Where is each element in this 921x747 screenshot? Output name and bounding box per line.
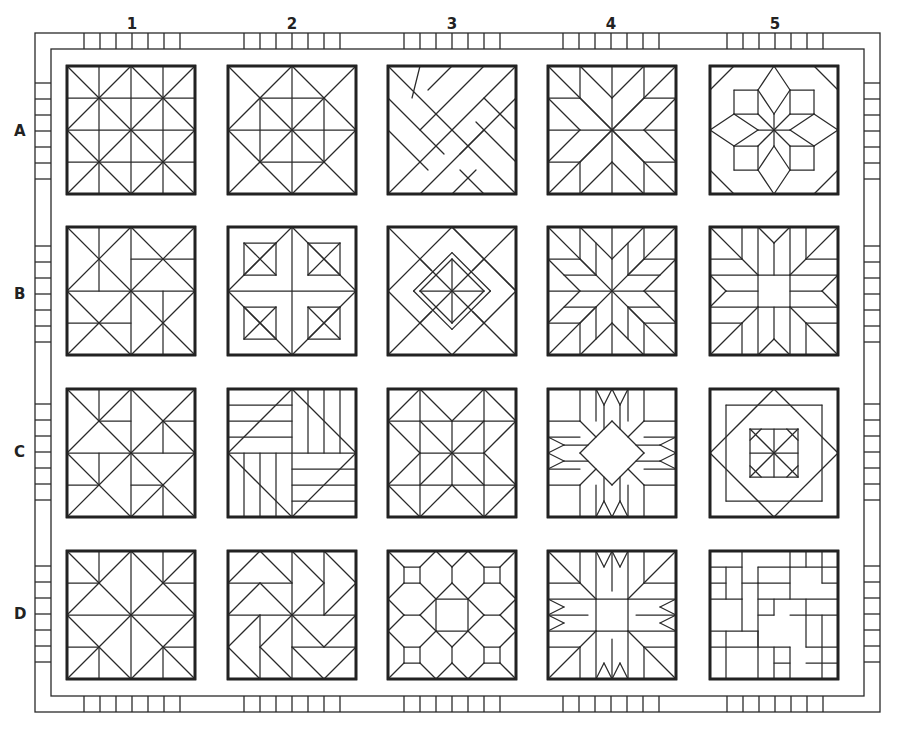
- quilt-block-d1: [67, 551, 195, 679]
- quilt-block-b1: [67, 227, 195, 355]
- quilt-block-a2: [228, 66, 356, 194]
- quilt-block-c2: [228, 389, 356, 517]
- quilt-block-a3: [388, 66, 516, 194]
- quilt-block-b5: [710, 227, 838, 355]
- quilt-block-d2: [228, 551, 356, 679]
- quilt-block-c1: [67, 389, 195, 517]
- quilt-block-c3: [388, 389, 516, 517]
- quilt-block-c4: [548, 389, 676, 517]
- quilt-block-d4: [548, 551, 676, 679]
- quilt-block-a1: [67, 66, 195, 194]
- quilt-block-c5: [710, 389, 838, 517]
- quilt-block-d5: [710, 551, 838, 679]
- quilt-blocks: [67, 66, 838, 679]
- quilt-sampler-diagram: 1 2 3 4 5 A B C D: [0, 0, 921, 747]
- quilt-block-b2: [228, 227, 356, 355]
- quilt-block-b4: [548, 227, 676, 355]
- quilt-block-a4: [548, 66, 676, 194]
- quilt-block-d3: [388, 551, 516, 679]
- quilt-block-a5: [710, 66, 838, 194]
- quilt-block-b3: [388, 227, 516, 355]
